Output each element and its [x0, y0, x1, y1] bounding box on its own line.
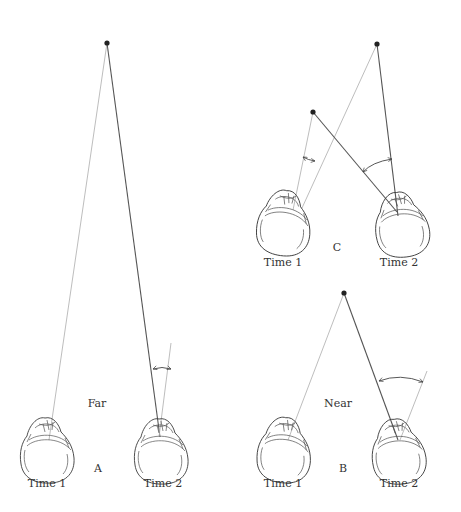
- panel-letter: A: [93, 462, 103, 475]
- time1-label: Time 1: [264, 256, 302, 269]
- panel-letter: B: [339, 462, 347, 475]
- gaze-line-time1: [49, 43, 107, 440]
- head-time1: [254, 415, 314, 486]
- angle-arrow-large: [363, 159, 392, 172]
- gaze-line-time2: [107, 43, 160, 437]
- panel-letter: C: [333, 241, 341, 254]
- head-time2: [134, 419, 188, 484]
- target-dot: [104, 40, 109, 45]
- head-time1: [20, 418, 74, 483]
- target-dot-far: [374, 41, 379, 46]
- gaze-line-time2-near: [313, 112, 397, 212]
- distance-label: Near: [324, 397, 353, 410]
- target-dot-near: [310, 109, 315, 114]
- time1-label: Time 1: [264, 477, 302, 490]
- gaze-line-time1-far: [302, 44, 377, 208]
- gaze-line-time1: [288, 293, 344, 440]
- time2-label: Time 2: [380, 477, 418, 490]
- angle-arrow-small: [303, 157, 315, 161]
- gaze-line-time2: [344, 293, 398, 440]
- time2-label: Time 2: [380, 256, 418, 269]
- head-time1: [253, 187, 315, 259]
- panel-c: C Time 1 Time 2: [253, 41, 432, 269]
- head-direction-line: [159, 343, 171, 437]
- panel-a: Far A Time 1 Time 2: [20, 40, 188, 490]
- panel-b: Near B Time 1 Time 2: [254, 290, 427, 490]
- head-time2: [372, 189, 432, 260]
- distance-label: Far: [88, 397, 107, 410]
- time1-label: Time 1: [28, 477, 66, 490]
- angle-arrow: [379, 377, 423, 382]
- angle-arrow: [153, 368, 171, 370]
- target-dot: [341, 290, 346, 295]
- head-direction-line: [400, 371, 427, 440]
- diagram-figure: Far A Time 1 Time 2 C Time 1 Time 2 Near…: [0, 0, 461, 512]
- gaze-line-time2-far: [377, 44, 398, 216]
- time2-label: Time 2: [144, 477, 182, 490]
- head-time2: [370, 417, 428, 486]
